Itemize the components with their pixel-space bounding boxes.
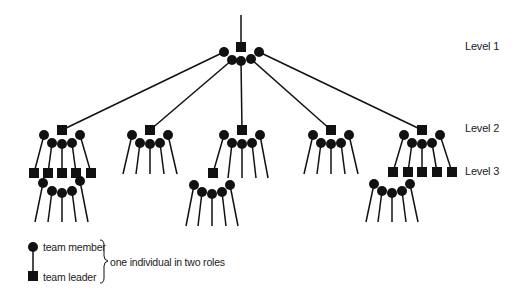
level-3-label: Level 3	[465, 165, 499, 177]
open-branch-line	[35, 183, 43, 222]
open-branch-line	[80, 181, 88, 222]
team-member-icon	[405, 179, 415, 189]
level2-to-level3-line	[34, 135, 44, 173]
level2-to-level3-line	[80, 135, 91, 173]
open-branch-line	[260, 135, 268, 178]
open-branch-line	[198, 192, 202, 226]
team-member-icon	[435, 130, 445, 140]
team-member-icon	[316, 138, 326, 148]
team-member-icon	[417, 139, 427, 149]
team-member-icon	[336, 138, 346, 148]
team-leader-icon	[326, 125, 336, 135]
team-leader-icon	[403, 167, 413, 177]
team-member-icon	[237, 139, 247, 149]
team-member-icon	[135, 138, 145, 148]
team-member-icon	[407, 138, 417, 148]
level2-to-level3-line	[440, 135, 452, 172]
level1-to-level2-line	[241, 61, 242, 130]
team-leader-icon	[57, 125, 67, 135]
level1-to-level2-line	[150, 60, 232, 130]
level2-to-level3-line	[213, 135, 224, 173]
team-member-icon	[254, 47, 264, 57]
team-member-icon	[145, 139, 155, 149]
team-member-icon	[397, 186, 407, 196]
team-member-icon	[247, 138, 257, 148]
legend-brace-label: one individual in two roles	[110, 256, 225, 268]
team-member-icon	[227, 55, 237, 65]
team-member-icon	[67, 138, 77, 148]
team-member-icon	[219, 47, 229, 57]
team-leader-icon	[208, 168, 218, 178]
team-leader-icon	[145, 125, 155, 135]
team-leader-icon	[388, 167, 398, 177]
open-branch-line	[168, 135, 177, 174]
open-branch-line	[349, 135, 358, 174]
team-member-icon	[39, 130, 49, 140]
open-branch-line	[186, 185, 194, 226]
team-member-icon	[163, 130, 173, 140]
team-member-icon	[227, 138, 237, 148]
level1-to-level2-line	[259, 52, 422, 130]
team-member-icon	[236, 56, 246, 66]
legend-team-member-label: team member	[43, 241, 106, 253]
level2-to-level3-line	[393, 135, 404, 172]
level-1-label: Level 1	[465, 40, 499, 52]
team-member-icon	[387, 188, 397, 198]
team-member-icon	[217, 187, 227, 197]
team-member-icon	[57, 188, 67, 198]
open-branch-line	[123, 135, 132, 174]
team-leader-icon	[417, 125, 427, 135]
team-member-icon	[155, 138, 165, 148]
team-member-icon	[197, 187, 207, 197]
team-leader-icon	[57, 168, 67, 178]
team-leader-icon	[43, 168, 53, 178]
legend-team-leader-label: team leader	[43, 271, 96, 283]
team-hierarchy-diagram	[0, 0, 519, 305]
level1-to-level2-line	[251, 59, 331, 130]
team-member-icon	[225, 180, 235, 190]
open-branch-line	[410, 184, 418, 222]
open-branch-line	[230, 185, 238, 226]
open-branch-line	[222, 192, 226, 226]
team-member-icon	[369, 179, 379, 189]
team-member-icon	[255, 130, 265, 140]
team-member-icon	[326, 139, 336, 149]
team-member-icon	[47, 186, 57, 196]
team-member-icon	[47, 138, 57, 148]
team-member-icon	[75, 130, 85, 140]
team-leader-icon	[236, 42, 246, 52]
team-leader-icon	[29, 168, 39, 178]
open-branch-line	[228, 143, 232, 178]
team-member-icon	[127, 130, 137, 140]
team-member-icon	[28, 242, 38, 252]
team-leader-icon	[417, 167, 427, 177]
team-member-icon	[308, 130, 318, 140]
team-member-icon	[189, 180, 199, 190]
team-member-icon	[344, 130, 354, 140]
level-2-label: Level 2	[465, 122, 499, 134]
open-branch-line	[304, 135, 313, 174]
team-member-icon	[399, 130, 409, 140]
team-member-icon	[75, 176, 85, 186]
team-leader-icon	[432, 167, 442, 177]
team-member-icon	[427, 138, 437, 148]
team-leader-icon	[28, 271, 38, 281]
team-member-icon	[246, 54, 256, 64]
team-member-icon	[57, 139, 67, 149]
open-branch-line	[366, 184, 374, 222]
team-member-icon	[207, 189, 217, 199]
team-member-icon	[377, 186, 387, 196]
team-leader-icon	[237, 125, 247, 135]
team-member-icon	[219, 130, 229, 140]
team-member-icon	[67, 186, 77, 196]
team-leader-icon	[447, 167, 457, 177]
open-branch-line	[252, 143, 256, 178]
team-member-icon	[38, 178, 48, 188]
level1-to-level2-line	[62, 52, 224, 130]
team-leader-icon	[86, 168, 96, 178]
